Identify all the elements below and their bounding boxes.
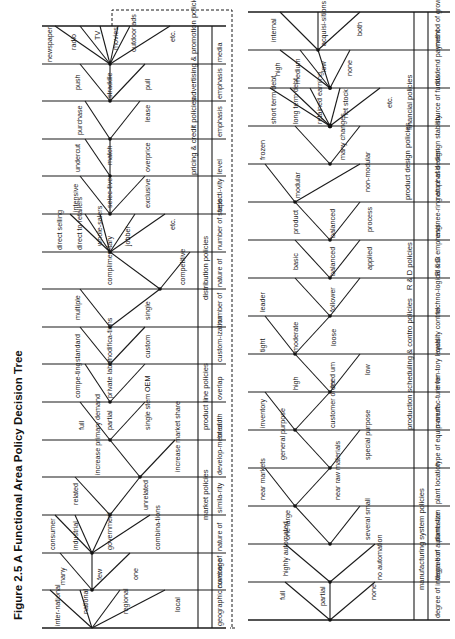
option-label: etc. (168, 30, 177, 42)
option-label: no automation (375, 534, 384, 580)
option-label: selec-tive (105, 178, 114, 208)
option-label: consumer (48, 518, 57, 550)
option-label: competitive (178, 249, 187, 285)
option-label: OEM (143, 376, 152, 392)
group-label: financial policies (405, 75, 414, 130)
option-label: modular (293, 171, 302, 198)
option-label: national (81, 588, 90, 614)
option-label: balanced (328, 209, 337, 238)
option-label: medium (293, 58, 302, 84)
option-label: full (278, 590, 287, 600)
option-label: intensive (71, 184, 80, 212)
option-label: complimen-tary (105, 235, 114, 285)
option-label: one large (283, 510, 292, 540)
option-label: radio (69, 34, 78, 50)
option-label: none (345, 60, 354, 76)
option-label: single stem (143, 394, 152, 430)
option-label: local (173, 597, 182, 612)
option-label: partial (318, 586, 327, 606)
option-label: whole-salers (95, 205, 104, 247)
option-label: one (131, 568, 140, 580)
option-label: multiple (73, 295, 82, 320)
group-label: pricing & credit policies (189, 97, 198, 175)
option-label: loose (329, 329, 338, 346)
decision-label: emphasis (215, 68, 224, 99)
option-label: push (73, 74, 82, 90)
option-label: private label (105, 359, 114, 398)
option-label: basic (291, 253, 300, 270)
option-label: TV (93, 31, 102, 40)
decision-label: selecti-vity (215, 178, 224, 212)
group-label: manufacturing system policies (417, 488, 426, 590)
option-label: many (58, 567, 67, 585)
option-label: low (319, 60, 328, 72)
option-label: short term debt (269, 76, 278, 124)
option-label: match (105, 145, 114, 165)
decision-label: emphasis (215, 106, 224, 137)
option-label: purchase (75, 105, 84, 135)
decision-label: media (215, 42, 224, 62)
option-label: single (143, 301, 152, 320)
group-label: advertising & promotion policies (189, 0, 198, 100)
group-label: distribution policies (201, 236, 210, 300)
option-label: frozen (258, 140, 267, 160)
option-label: high (291, 376, 300, 390)
option-label: none (369, 584, 378, 600)
option-label: near raw materials (333, 440, 342, 500)
option-label: med um (328, 362, 337, 388)
option-label: government (105, 512, 114, 550)
option-label: several small (363, 498, 372, 540)
group-label: product design policies (403, 123, 412, 200)
option-label: special purpose (363, 410, 372, 460)
decision-label: plant size (433, 512, 442, 542)
option-label: tight (258, 338, 267, 352)
option-label: follower (328, 287, 337, 312)
option-label: moderate (291, 322, 300, 352)
option-label: few (95, 568, 104, 580)
option-label: etc. (168, 218, 177, 230)
group-label: production scheduling & contro policies (405, 298, 414, 430)
decision-label: number of (215, 556, 224, 588)
option-label: related (71, 483, 80, 505)
group-label: R & D policies (405, 242, 414, 290)
connector-dashed-line (112, 10, 232, 628)
decision-label: method of growth (433, 0, 442, 48)
option-label: combina-tions (153, 505, 162, 550)
decision-tree-diagram: Figure 2.5 A Functional Area Policy Deci… (0, 0, 455, 639)
decision-label: level (215, 159, 224, 174)
option-label: leader (258, 291, 267, 312)
option-label: retained earning (315, 72, 324, 124)
option-label: standard (73, 334, 82, 362)
decision-label: number of (215, 293, 224, 325)
option-label: lease (143, 105, 152, 122)
option-label: applied (365, 247, 374, 270)
option-label: process (365, 206, 374, 232)
option-label: exclusive (143, 178, 152, 208)
option-label: custom (143, 335, 152, 358)
decision-label: breadth (215, 414, 224, 438)
option-label: straddle (105, 72, 114, 98)
option-label: industrial (71, 521, 80, 550)
figure-title: Figure 2.5 A Functional Area Policy Deci… (12, 350, 24, 620)
option-label: overprice (143, 142, 152, 172)
option-label: compe-ting (73, 362, 82, 398)
option-label: partial (105, 410, 114, 430)
option-label: pull (143, 78, 152, 90)
option-label: many changes (338, 113, 347, 160)
option-label: modifica-tions (105, 317, 114, 362)
option-label: regional (121, 588, 130, 614)
option-label: low (363, 363, 372, 375)
option-label: increase primary demand (93, 394, 102, 475)
option-label: inter-national (53, 584, 62, 626)
group-label: market policies (201, 469, 210, 520)
decision-label: nature of (215, 523, 224, 551)
option-label: net stock (341, 89, 350, 118)
option-label: increase market share (173, 401, 182, 472)
option-label: newspaper (45, 26, 54, 62)
option-label: near markets (258, 458, 267, 500)
option-label: balanced (328, 247, 337, 276)
top-half-tree: geographic coverage number of nature of … (42, 0, 226, 628)
option-label: inventory (258, 398, 267, 428)
option-label: acquisi-sitions (319, 0, 328, 46)
option-label: direct selling (55, 210, 64, 250)
